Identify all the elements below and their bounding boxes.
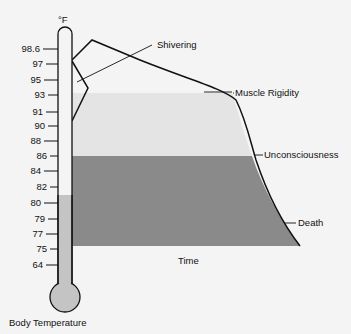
shivering-leader [77, 45, 152, 82]
tick-label: 91 [0, 107, 43, 117]
tick-label: 84 [0, 166, 41, 176]
tick-label: 75 [0, 244, 47, 254]
tick-label: 90 [0, 121, 45, 131]
unconsciousness-band [72, 156, 300, 246]
shivering-label: Shivering [157, 40, 197, 50]
death-label: Death [298, 218, 323, 228]
tick-label: 86 [0, 151, 47, 161]
tick-label: 95 [0, 75, 41, 85]
tick-label: 64 [0, 260, 43, 270]
tick-label: 79 [0, 214, 45, 224]
tick-label: 98.6 [0, 44, 40, 54]
time-axis-label: Time [178, 256, 199, 266]
unconsciousness-label: Unconsciousness [264, 150, 338, 160]
tick-label: 93 [0, 90, 45, 100]
hypothermia-diagram [0, 0, 351, 334]
tick-label: 97 [0, 59, 43, 69]
tick-label: 77 [0, 229, 43, 239]
tick-label: 82 [0, 182, 47, 192]
unit-label: °F [58, 15, 68, 25]
muscle-rigidity-label: Muscle Rigidity [235, 88, 299, 98]
muscle-rigidity-band [72, 93, 252, 156]
body-temperature-title: Body Temperature [9, 318, 86, 328]
tick-label: 88 [0, 136, 41, 146]
tick-label: 80 [0, 198, 41, 208]
